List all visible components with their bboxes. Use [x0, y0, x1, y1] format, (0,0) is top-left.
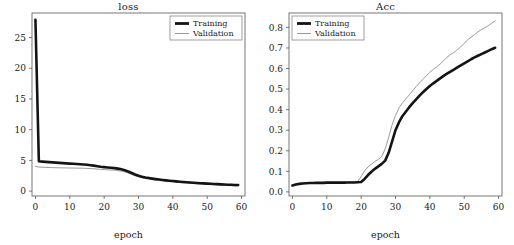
- x-tick-label: 30: [133, 202, 145, 212]
- x-tick-label: 40: [167, 202, 179, 212]
- x-tick-label: 0: [33, 202, 39, 212]
- y-tick-label: 0.1: [269, 167, 283, 177]
- x-tick-label: 50: [201, 202, 213, 212]
- y-tick-label: 0.4: [269, 105, 284, 115]
- x-tick-label: 20: [98, 202, 110, 212]
- y-tick-label: 0.6: [269, 64, 284, 74]
- x-axis-label-acc: epoch: [257, 229, 514, 240]
- legend-label-training: Training: [193, 19, 227, 28]
- y-tick-label: 0.3: [269, 125, 284, 135]
- x-axis-label-loss: epoch: [0, 229, 257, 240]
- x-tick-label: 60: [236, 202, 248, 212]
- x-tick-label: 30: [390, 202, 402, 212]
- x-tick-label: 0: [290, 202, 296, 212]
- plot-frame: [32, 13, 245, 196]
- y-tick-label: 15: [15, 94, 27, 104]
- x-tick-label: 20: [355, 202, 367, 212]
- loss-plot-svg: 01020304050600510152025TrainingValidatio…: [0, 0, 257, 245]
- x-tick-label: 50: [458, 202, 470, 212]
- legend-label-validation: Validation: [314, 29, 356, 38]
- series-line-validation: [292, 21, 495, 185]
- x-tick-label: 10: [64, 202, 76, 212]
- series-line-training: [292, 48, 495, 186]
- y-tick-label: 0.2: [269, 146, 283, 156]
- y-tick-label: 5: [20, 156, 26, 166]
- legend[interactable]: TrainingValidation: [292, 16, 364, 40]
- figure-container: loss 01020304050600510152025TrainingVali…: [0, 0, 514, 245]
- x-tick-label: 10: [321, 202, 333, 212]
- chart-panel-acc: Acc 01020304050600.00.10.20.30.40.50.60.…: [257, 0, 514, 245]
- y-tick-label: 0.7: [269, 43, 284, 53]
- legend[interactable]: TrainingValidation: [170, 16, 242, 40]
- y-tick-label: 10: [15, 125, 27, 135]
- y-tick-label: 0.0: [269, 187, 284, 197]
- y-tick-label: 20: [15, 63, 27, 73]
- series-line-training: [35, 20, 238, 185]
- x-tick-label: 60: [493, 202, 505, 212]
- y-tick-label: 0: [20, 186, 26, 196]
- y-tick-label: 0.8: [269, 23, 284, 33]
- chart-panel-loss: loss 01020304050600510152025TrainingVali…: [0, 0, 257, 245]
- y-tick-label: 0.5: [269, 84, 284, 94]
- legend-label-training: Training: [315, 19, 349, 28]
- plot-frame: [289, 13, 502, 196]
- y-tick-label: 25: [15, 33, 27, 43]
- acc-plot-svg: 01020304050600.00.10.20.30.40.50.60.70.8…: [257, 0, 514, 245]
- x-tick-label: 40: [424, 202, 436, 212]
- legend-label-validation: Validation: [192, 29, 234, 38]
